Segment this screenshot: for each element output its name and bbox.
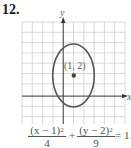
x-axis-label: x	[126, 91, 131, 102]
center-point	[72, 73, 76, 77]
ellipse-equation: (x − 1)2 4 + (y − 2)2 9 = 1	[28, 124, 131, 148]
axes	[22, 20, 126, 124]
y-axis-label: y	[59, 7, 65, 18]
plus-sign: +	[69, 129, 75, 141]
fraction-x: (x − 1)2 4	[28, 124, 66, 148]
graph: y x (1, 2)	[0, 0, 131, 124]
fraction-y: (y − 2)2 9	[77, 124, 115, 148]
grid	[22, 22, 125, 124]
center-label: (1, 2)	[64, 60, 86, 72]
equation-rhs: = 1	[115, 129, 129, 141]
